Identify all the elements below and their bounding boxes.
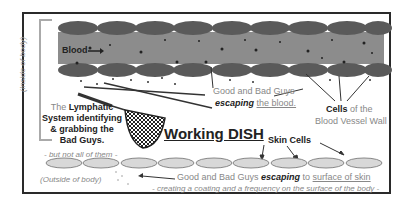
lymph-net-icon xyxy=(125,110,165,148)
but-not-all-label: - but not all of them - xyxy=(44,150,117,160)
blood-vessel-wall-label: Blood Vessel Wall xyxy=(315,116,387,126)
coating-label: - creating a coating and a frequency on … xyxy=(152,184,379,194)
lymphatic-system-label: The Lymphatic System identifying & grabb… xyxy=(40,102,124,146)
good-bad-guys-label: Good and Bad Guys xyxy=(213,86,295,96)
escaping-particles xyxy=(80,77,371,85)
surface-escape-label: Good and Bad Guys escaping to surface of… xyxy=(177,172,371,182)
inside-body-label: (Inside of body) xyxy=(18,37,27,92)
skin-cells-label: Skin Cells xyxy=(268,135,311,145)
surface-arrow-icon xyxy=(138,173,143,178)
surface-particles xyxy=(115,171,129,185)
cells-of-the-label: Cells of the xyxy=(326,104,373,114)
escaping-blood-label: escaping the blood. xyxy=(215,98,296,108)
vessel-wall-cells-top xyxy=(58,21,392,35)
pointer-line xyxy=(84,87,205,95)
outside-body-label: (Outside of body) xyxy=(40,175,101,185)
vessel-wall-cells-bottom xyxy=(58,63,392,77)
wall-pointer-lines xyxy=(306,74,369,101)
diagram-title: Working DISH xyxy=(164,126,264,142)
blood-label: Blood xyxy=(62,45,88,55)
skin-pointer-arrows xyxy=(260,143,344,160)
